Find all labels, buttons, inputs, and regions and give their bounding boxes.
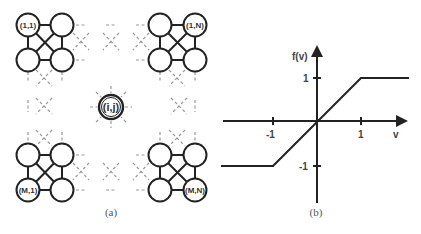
cluster-bottom-right: (M,N)	[149, 144, 207, 202]
node	[51, 144, 74, 167]
node	[149, 14, 172, 37]
node	[184, 49, 207, 72]
center-node: (i,j)	[99, 95, 123, 119]
y-tick-label-neg1: -1	[299, 161, 308, 172]
panel-b-plot: f(v) v -1 1 1 -1 (b)	[221, 45, 409, 219]
node	[149, 144, 172, 167]
panel-a-grid: (1,1) (1,N) (i,j)	[17, 14, 207, 220]
cluster-top-right: (1,N)	[149, 14, 207, 72]
node-label-m-n: (M,N)	[185, 186, 205, 195]
node	[149, 49, 172, 72]
node	[17, 144, 40, 167]
node-label-i-j: (i,j)	[103, 101, 120, 113]
node	[184, 144, 207, 167]
cluster-bottom-left: (M,1)	[17, 144, 74, 202]
x-tick-label-neg1: -1	[266, 129, 275, 140]
y-tick-label-1: 1	[303, 73, 309, 84]
node	[51, 49, 74, 72]
caption-b: (b)	[310, 206, 323, 219]
x-axis-arrow-icon	[396, 115, 408, 127]
node-label-1-1: (1,1)	[20, 21, 37, 30]
y-axis-label: f(v)	[292, 51, 308, 62]
node-label-1-n: (1,N)	[186, 21, 204, 30]
node	[149, 179, 172, 202]
node-label-m-1: (M,1)	[19, 186, 38, 195]
cluster-top-left: (1,1)	[17, 14, 74, 72]
node	[17, 49, 40, 72]
caption-a: (a)	[105, 206, 118, 219]
node	[51, 179, 74, 202]
x-tick-label-1: 1	[358, 129, 364, 140]
y-axis-arrow-icon	[311, 45, 323, 57]
figure: (1,1) (1,N) (i,j)	[0, 0, 421, 234]
node	[51, 14, 74, 37]
x-axis-label: v	[393, 129, 399, 140]
